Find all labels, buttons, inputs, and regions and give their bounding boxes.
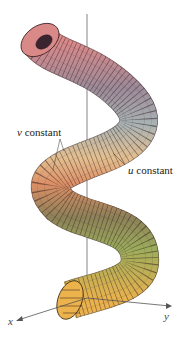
v-constant-leader-1 bbox=[60, 139, 64, 151]
x-axis-arrow-icon bbox=[16, 316, 23, 321]
u-constant-label: u constant bbox=[128, 165, 173, 176]
x-axis-label: x bbox=[8, 316, 13, 327]
y-axis-arrow-icon bbox=[166, 303, 172, 309]
helix-tube bbox=[15, 16, 140, 322]
v-constant-label: v constant bbox=[17, 127, 61, 138]
y-axis-label: y bbox=[164, 311, 169, 322]
u-constant-text: constant bbox=[134, 164, 173, 176]
v-constant-text: constant bbox=[22, 126, 61, 138]
